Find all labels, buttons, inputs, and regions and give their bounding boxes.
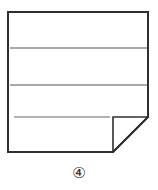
figure-caption: ④ [0, 158, 158, 188]
option-number-label: ④ [72, 166, 85, 181]
figure-container: ④ [0, 0, 158, 190]
paper-sheet-fill [8, 12, 148, 152]
